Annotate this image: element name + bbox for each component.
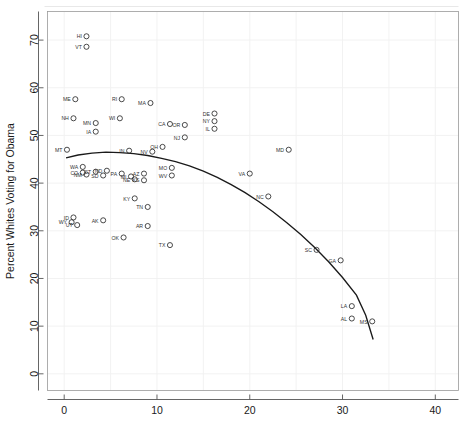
data-point-label: MN	[83, 120, 91, 126]
data-point-marker	[93, 129, 98, 134]
data-point: OH	[150, 144, 165, 150]
data-point-label: MA	[138, 100, 146, 106]
data-point: AZ	[133, 171, 147, 177]
data-point: VA	[239, 171, 253, 177]
data-point: RI	[112, 96, 124, 102]
data-point-marker	[169, 165, 174, 170]
data-point: AL	[341, 316, 355, 322]
data-point-label: IA	[86, 129, 91, 135]
data-point-label: NM	[74, 172, 82, 178]
data-point-label: OK	[111, 235, 119, 241]
data-point-marker	[84, 44, 89, 49]
data-point-marker	[349, 316, 354, 321]
data-point: HI	[77, 33, 89, 39]
data-point-label: TN	[136, 204, 143, 210]
data-point: OK	[111, 235, 126, 241]
data-point-marker	[212, 126, 217, 131]
data-point-marker	[182, 122, 187, 127]
data-point-marker	[212, 111, 217, 116]
data-point: ME	[63, 96, 78, 102]
x-axis-tick-label: 10	[151, 404, 163, 416]
data-point-label: VA	[239, 171, 246, 177]
data-point-label: GA	[329, 258, 337, 264]
scatter-plot-figure: Percent Whites Voting for Obama 01020304…	[0, 0, 466, 429]
data-point-label: AL	[341, 316, 347, 322]
data-point-marker	[286, 147, 291, 152]
data-point-label: AZ	[133, 171, 140, 177]
data-point: TN	[136, 204, 150, 210]
data-point: ID	[64, 215, 76, 221]
data-point-marker	[141, 178, 146, 183]
data-point-label: MD	[276, 147, 284, 153]
data-point: KS	[132, 177, 146, 183]
data-point-marker	[64, 147, 69, 152]
data-point: AR	[136, 223, 150, 229]
x-axis-group: 010203040	[48, 395, 459, 416]
data-point: VT	[75, 44, 89, 50]
data-point-label: OR	[172, 122, 180, 128]
x-axis-tick-label: 20	[244, 404, 256, 416]
y-axis-tick-label: 0	[29, 371, 41, 377]
data-point-marker	[127, 148, 132, 153]
data-point-label: MS	[360, 319, 368, 325]
data-points-group: HIVTMERIMANHMNWICAORIANJDENYILMDMTINNVOH…	[55, 33, 375, 324]
data-point-label: ID	[64, 215, 69, 221]
y-axis-tick-label: 30	[29, 225, 41, 237]
data-point: NC	[256, 194, 271, 200]
data-point-label: UT	[66, 222, 74, 228]
plot-panel-border	[48, 12, 459, 391]
plot-border-group	[45, 7, 459, 391]
data-point-marker	[73, 97, 78, 102]
data-point: KY	[123, 196, 137, 202]
y-axis-label-container: Percent Whites Voting for Obama	[0, 0, 20, 429]
gridlines-group	[48, 12, 459, 391]
data-point: ND	[95, 168, 110, 174]
data-point-marker	[212, 119, 217, 124]
data-point-label: IN	[119, 148, 124, 154]
data-point: IA	[86, 129, 98, 135]
data-point: MO	[159, 165, 175, 171]
y-axis-tick-label: 70	[29, 34, 41, 46]
data-point-label: NC	[256, 194, 264, 200]
data-point: MT	[55, 147, 70, 153]
data-point-label: AK	[92, 218, 99, 224]
data-point-label: IL	[206, 126, 210, 132]
data-point: UT	[66, 222, 80, 228]
data-point-marker	[145, 223, 150, 228]
data-point-marker	[84, 34, 89, 39]
data-point-marker	[145, 204, 150, 209]
data-point: TX	[159, 242, 173, 248]
data-point: GA	[329, 258, 344, 264]
data-point-marker	[266, 194, 271, 199]
data-point-marker	[141, 171, 146, 176]
data-point-label: NV	[141, 149, 149, 155]
data-point-label: SC	[305, 247, 312, 253]
data-point: CA	[158, 121, 172, 127]
data-point-marker	[132, 196, 137, 201]
data-point-marker	[167, 243, 172, 248]
y-axis-tick-label: 40	[29, 177, 41, 189]
data-point-marker	[104, 168, 109, 173]
x-axis-tick-label: 30	[337, 404, 349, 416]
data-point-marker	[117, 116, 122, 121]
data-point-label: AR	[136, 223, 143, 229]
data-point: MD	[276, 147, 291, 153]
data-point-label: PA	[111, 171, 118, 177]
data-point-marker	[370, 319, 375, 324]
data-point: WI	[109, 115, 122, 121]
data-point-label: NJ	[174, 135, 181, 141]
data-point-marker	[101, 218, 106, 223]
data-point-label: HI	[77, 33, 82, 39]
y-axis-group: 010203040506070	[29, 12, 44, 391]
data-point-label: NY	[203, 118, 211, 124]
data-point-label: KY	[123, 196, 130, 202]
data-point-label: RI	[112, 96, 117, 102]
data-point-marker	[349, 304, 354, 309]
x-axis-tick-label: 0	[61, 404, 67, 416]
data-point: AK	[92, 218, 106, 224]
data-point: IL	[206, 126, 217, 132]
data-point: MN	[83, 120, 98, 126]
data-point-marker	[93, 121, 98, 126]
data-point: OR	[172, 122, 187, 128]
data-point-label: MO	[159, 165, 167, 171]
